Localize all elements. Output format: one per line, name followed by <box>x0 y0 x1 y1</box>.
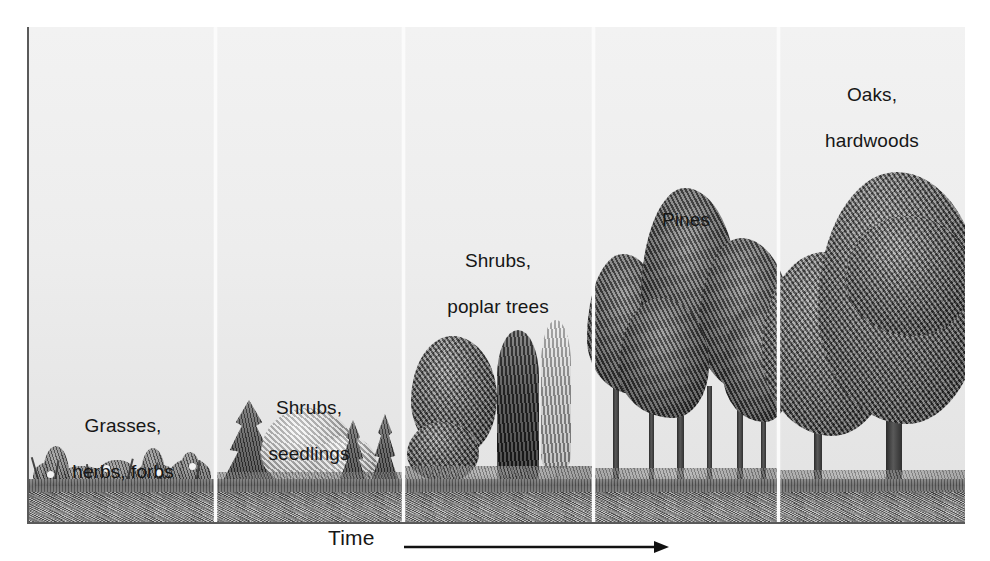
poplar-tree <box>497 330 539 486</box>
time-axis-label: Time <box>328 526 375 550</box>
stage-label-5-line2: hardwoods <box>782 129 962 152</box>
stage-label-3-line2: poplar trees <box>407 295 589 318</box>
panel-divider-3 <box>592 27 595 522</box>
panel-divider-4 <box>777 27 780 522</box>
stage-label-4: Pines <box>597 185 775 254</box>
succession-figure-root: Grasses, herbs, forbs Shrubs, seedlings … <box>0 0 990 561</box>
stage-label-2-line1: Shrubs, <box>219 396 399 419</box>
stage-label-5: Oaks, hardwoods <box>782 60 962 175</box>
figure-frame: Grasses, herbs, forbs Shrubs, seedlings … <box>27 27 965 524</box>
stage-panel-4[interactable] <box>595 27 777 522</box>
stage-label-4-line1: Pines <box>597 208 775 231</box>
right-arrow-icon <box>404 540 670 554</box>
stage-label-1: Grasses, herbs, forbs <box>35 391 211 506</box>
time-axis: Time <box>0 524 990 561</box>
oak-crown <box>846 216 965 336</box>
stage-label-3: Shrubs, poplar trees <box>407 226 589 341</box>
stage-label-5-line1: Oaks, <box>782 83 962 106</box>
stage-label-1-line2: herbs, forbs <box>35 460 211 483</box>
stage-label-2: Shrubs, seedlings <box>219 373 399 488</box>
panel-divider-1 <box>214 27 217 522</box>
panel-divider-2 <box>402 27 405 522</box>
poplar-tree <box>541 320 571 468</box>
stage-label-2-line2: seedlings <box>219 442 399 465</box>
stage-label-1-line1: Grasses, <box>35 414 211 437</box>
stage-label-3-line1: Shrubs, <box>407 249 589 272</box>
